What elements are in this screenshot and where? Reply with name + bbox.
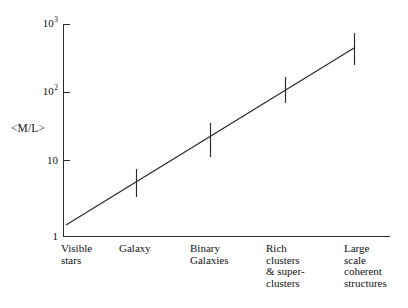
category-label-large-scale-structures: Large scale coherent structures bbox=[344, 243, 408, 289]
chart-figure: 103 102 10 1 <M/L> Visible stars Galaxy … bbox=[0, 0, 408, 308]
category-label-galaxy: Galaxy bbox=[119, 243, 181, 255]
ytick-label-100: 102 bbox=[20, 86, 58, 97]
ytick-label-1: 1 bbox=[20, 231, 58, 242]
y-axis-label: <M/L> bbox=[11, 122, 45, 134]
category-label-rich-clusters: Rich clusters & super- clusters bbox=[266, 243, 332, 289]
category-label-binary-galaxies: Binary Galaxies bbox=[190, 243, 260, 266]
ytick-label-1000: 103 bbox=[20, 18, 58, 29]
category-label-visible-stars: Visible stars bbox=[61, 243, 123, 266]
ytick-label-10: 10 bbox=[20, 155, 58, 166]
